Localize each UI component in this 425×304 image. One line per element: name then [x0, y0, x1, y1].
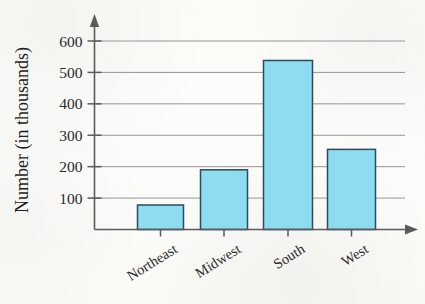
y-tick-label: 600: [59, 33, 83, 50]
y-tick-label: 300: [59, 127, 83, 144]
y-tick-labels-group: 100200300400500600: [59, 33, 83, 207]
bar-south: [264, 60, 313, 229]
x-axis-arrow-right-icon: [405, 225, 418, 235]
chart-canvas: 100200300400500600 NortheastMidwestSouth…: [0, 0, 425, 304]
bars-group: [138, 60, 376, 229]
bar-chart: 100200300400500600 NortheastMidwestSouth…: [0, 0, 425, 304]
y-tick-label: 400: [59, 95, 83, 112]
y-tick-label: 200: [59, 158, 83, 175]
y-axis-title: Number (in thousands): [12, 47, 33, 213]
x-category-label-south: South: [270, 240, 308, 272]
y-axis-arrow-up-icon: [90, 14, 99, 27]
x-category-label-midwest: Midwest: [192, 240, 244, 280]
x-tick-marks-group: [161, 230, 352, 237]
y-tick-label: 500: [59, 64, 83, 81]
y-tick-label: 100: [59, 190, 83, 207]
x-category-label-west: West: [338, 240, 371, 269]
bar-northeast: [138, 205, 184, 230]
x-category-label-northeast: Northeast: [124, 240, 180, 283]
x-category-labels-group: NortheastMidwestSouthWest: [124, 240, 371, 284]
bar-west: [328, 149, 376, 229]
bar-midwest: [201, 170, 248, 230]
